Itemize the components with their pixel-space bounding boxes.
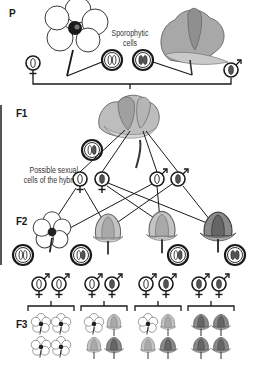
f3-group-1 [31, 314, 71, 358]
f1-female-gamete-dark [95, 172, 109, 193]
f1-male-gamete-light [150, 169, 167, 186]
f2-cell-2 [71, 245, 91, 265]
f3-brackets [28, 301, 234, 311]
f2-flower-pink [93, 214, 123, 255]
f2-group3-gamete-2 [159, 274, 176, 298]
f2-cell-1 [13, 245, 33, 265]
f1-male-gamete-dark [171, 169, 188, 186]
f1-sporophytic-cell [82, 140, 102, 160]
parent-female-gamete [26, 56, 40, 77]
f2-group4-gamete-1 [192, 274, 209, 298]
f2-flower-white [33, 212, 71, 253]
f3-group-2 [84, 314, 123, 360]
f3-group-4 [191, 314, 230, 359]
parent-dark-flower [161, 8, 228, 75]
parent-dark-sporophytic-cell [133, 50, 153, 70]
f2-group2-gamete-2 [105, 274, 122, 298]
f2-group1-gamete-2 [52, 274, 69, 298]
parent-white-flower [45, 0, 108, 76]
f2-group4-gamete-2 [212, 274, 229, 298]
f2-group1-gamete-1 [32, 274, 49, 298]
f2-cell-3 [168, 245, 188, 265]
f2-group2-gamete-1 [85, 274, 102, 298]
f2-cell-4 [225, 245, 245, 265]
cross-bracket [33, 77, 231, 84]
f3-group-3 [138, 314, 177, 360]
parent-white-sporophytic-cell [102, 50, 122, 70]
genetics-diagram [0, 0, 254, 366]
f1-hybrid-flower [99, 95, 160, 168]
f2-group3-gamete-1 [139, 274, 156, 298]
